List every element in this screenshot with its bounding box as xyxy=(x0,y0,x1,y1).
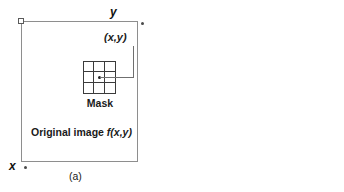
mask-cell xyxy=(84,83,94,93)
axis-x-endpoint-dot xyxy=(24,166,27,169)
panel-b: Mask Image (b) xyxy=(172,0,344,192)
figure-mask-placement: y x (x,y) Mask Original image f(x,y) xyxy=(0,0,344,192)
panel-a-caption: (a) xyxy=(69,171,82,182)
panel-a: y x (x,y) Mask Original image f(x,y) xyxy=(0,0,172,192)
axis-y-label: y xyxy=(110,6,117,18)
mask-cell xyxy=(105,83,115,93)
axis-x-label: x xyxy=(9,160,16,172)
axis-y-endpoint-dot xyxy=(141,22,144,25)
leader-line-horizontal xyxy=(100,77,134,78)
mask-cell xyxy=(84,72,94,82)
mask-cell xyxy=(94,62,104,72)
mask-label-a: Mask xyxy=(75,98,125,109)
origin-marker-icon xyxy=(18,18,24,24)
original-image-label: Original image f(x,y) xyxy=(31,127,132,138)
mask-cell xyxy=(94,83,104,93)
leader-line-vertical xyxy=(133,46,134,78)
original-image-function-text: f(x,y) xyxy=(107,126,132,138)
original-image-label-text: Original image xyxy=(31,126,107,138)
mask-cell xyxy=(84,62,94,72)
mask-cell xyxy=(105,62,115,72)
point-coordinate-label: (x,y) xyxy=(104,32,127,43)
